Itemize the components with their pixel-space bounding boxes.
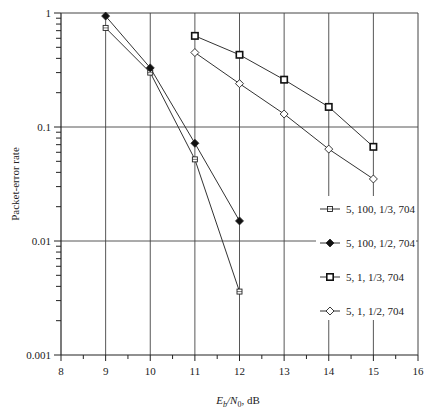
y-axis-title: Packet-error rate bbox=[9, 147, 21, 221]
open-diamond-marker-icon bbox=[191, 49, 199, 57]
legend-label: 5, 1, 1/2, 704 bbox=[346, 305, 405, 317]
series-2 bbox=[102, 12, 244, 225]
open-square-marker-icon bbox=[370, 144, 376, 150]
legend: 5, 100, 1/3, 7045, 100, 1/2, 7045, 1, 1/… bbox=[316, 196, 416, 320]
x-tick-label: 9 bbox=[103, 365, 109, 377]
y-tick-label: 1 bbox=[46, 7, 52, 19]
legend-label: 5, 1, 1/3, 704 bbox=[346, 271, 405, 283]
open-square-marker-icon bbox=[192, 33, 198, 39]
legend-label: 5, 100, 1/3, 704 bbox=[346, 203, 416, 215]
x-axis-title: Eb/N0, dB bbox=[215, 394, 259, 409]
x-tick-label: 13 bbox=[279, 365, 291, 377]
open-square-marker-icon bbox=[326, 104, 332, 110]
x-tick-label: 12 bbox=[234, 365, 245, 377]
series-line bbox=[106, 28, 240, 292]
legend-label: 5, 100, 1/2, 704 bbox=[346, 237, 416, 249]
open-diamond-marker-icon bbox=[369, 175, 377, 183]
open-diamond-marker-icon bbox=[236, 80, 244, 88]
axis-labels: Packet-error rate Eb/N0, dB bbox=[9, 147, 260, 409]
x-tick-label: 14 bbox=[323, 365, 335, 377]
x-tick-label: 11 bbox=[190, 365, 201, 377]
axes: 89101112131415160.0010.010.11 bbox=[26, 7, 424, 377]
open-square-marker-icon bbox=[327, 274, 333, 280]
x-tick-label: 15 bbox=[368, 365, 380, 377]
open-square-marker-icon bbox=[236, 52, 242, 58]
y-tick-label: 0.001 bbox=[26, 349, 51, 361]
y-tick-label: 0.01 bbox=[32, 235, 51, 247]
filled-diamond-marker-icon bbox=[191, 139, 199, 147]
y-tick-label: 0.1 bbox=[37, 121, 51, 133]
filled-diamond-marker-icon bbox=[236, 217, 244, 225]
x-tick-label: 10 bbox=[145, 365, 157, 377]
x-tick-label: 8 bbox=[58, 365, 64, 377]
chart: 89101112131415160.0010.010.11 5, 100, 1/… bbox=[0, 0, 436, 418]
open-square-marker-icon bbox=[281, 76, 287, 82]
series-1 bbox=[103, 25, 242, 294]
x-tick-label: 16 bbox=[413, 365, 425, 377]
